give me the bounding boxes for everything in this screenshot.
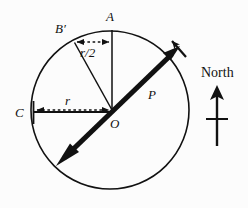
label-measure-half-r: r/2 [80, 46, 95, 59]
vector-p-shaft [64, 54, 172, 158]
label-point-b-prime: B′ [55, 22, 66, 35]
label-point-a: A [106, 10, 114, 23]
label-vector-p: P [148, 88, 156, 101]
label-measure-r: r [65, 94, 70, 107]
label-north: North [201, 66, 234, 80]
label-point-o: O [110, 117, 119, 130]
diagram-svg [0, 0, 248, 208]
label-point-c: C [15, 106, 24, 119]
figure-canvas: A B′ C O P r/2 r North [0, 0, 248, 208]
